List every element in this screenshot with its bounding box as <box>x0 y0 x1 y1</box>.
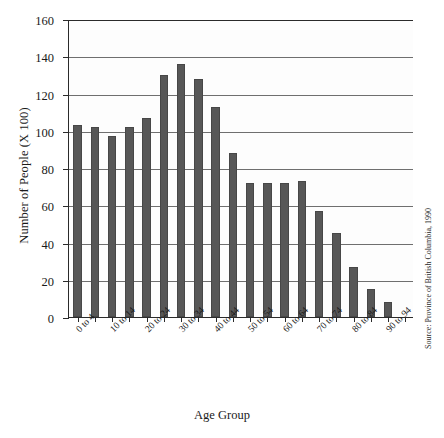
y-axis-title: Number of People (X 100) <box>17 66 32 286</box>
bar <box>298 181 307 317</box>
bar <box>160 75 169 317</box>
bar <box>263 183 272 317</box>
y-axis-tick-label: 80 <box>42 163 55 178</box>
bar <box>125 127 134 317</box>
y-axis-tick-label: 20 <box>42 274 55 289</box>
y-axis-tick-label: 40 <box>42 237 55 252</box>
bar <box>246 183 255 317</box>
y-axis-tick-label: 100 <box>35 125 54 140</box>
y-axis-tick-label: 0 <box>48 312 54 327</box>
plot-area: 020406080100120140160 <box>68 20 413 318</box>
bar-series <box>69 20 413 317</box>
x-axis-title: Age Group <box>0 408 444 423</box>
bar <box>211 107 220 317</box>
y-axis-tick: 0 <box>63 318 69 319</box>
bar <box>349 267 358 317</box>
bar <box>142 118 151 317</box>
bar <box>194 79 203 317</box>
bar <box>73 125 82 317</box>
y-axis-tick-label: 120 <box>35 88 54 103</box>
source-note: Source: Province of British Columbia, 19… <box>424 184 433 374</box>
bar <box>108 136 117 317</box>
bar <box>280 183 289 317</box>
bar <box>177 64 186 317</box>
chart-figure: Number of People (X 100) Source: Provinc… <box>0 0 444 438</box>
bar <box>384 302 393 317</box>
y-axis-tick-label: 60 <box>42 200 55 215</box>
y-axis-tick-label: 140 <box>35 51 54 66</box>
bar <box>315 211 324 317</box>
y-axis-tick-label: 160 <box>35 14 54 29</box>
bar <box>229 153 238 317</box>
bar <box>91 127 100 317</box>
